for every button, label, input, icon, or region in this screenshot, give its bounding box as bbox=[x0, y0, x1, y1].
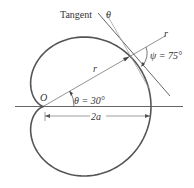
origin-label: O bbox=[40, 92, 47, 103]
tangent-label: Tangent bbox=[60, 9, 92, 20]
diameter-arrow-right bbox=[145, 114, 150, 118]
radius-arrowhead bbox=[123, 57, 130, 62]
diameter-arrow-left bbox=[45, 114, 50, 118]
theta-angle-label: θ = 30° bbox=[74, 95, 105, 106]
diameter-label: 2a bbox=[91, 111, 101, 122]
psi-label: ψ = 75° bbox=[150, 50, 182, 61]
theta-top-label: θ bbox=[106, 9, 111, 20]
r-ray-label: r bbox=[164, 28, 168, 39]
cardioid-diagram: Tangent θ r ψ = 75° r O θ = 30° 2a bbox=[0, 0, 194, 188]
theta-reference-line bbox=[106, 13, 150, 90]
r-segment-label: r bbox=[93, 63, 97, 74]
